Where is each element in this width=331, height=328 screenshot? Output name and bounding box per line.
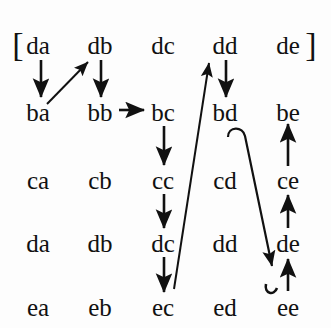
edge-ba-to-db bbox=[47, 62, 88, 104]
edge-ec-to-dd bbox=[174, 63, 209, 289]
cell-cb: cb bbox=[88, 168, 112, 193]
cell-dd-top: dd bbox=[213, 33, 238, 58]
edge-bd-to-ee-tail-hook bbox=[266, 284, 277, 293]
cell-eb: eb bbox=[88, 295, 112, 320]
cell-db-lower: db bbox=[88, 231, 113, 256]
cell-ce: ce bbox=[277, 168, 299, 193]
cell-cc: cc bbox=[152, 168, 174, 193]
cell-dd-lower: dd bbox=[213, 231, 238, 256]
cell-cd: cd bbox=[213, 168, 237, 193]
cell-ed: ed bbox=[213, 295, 237, 320]
cell-ca: ca bbox=[27, 168, 49, 193]
cell-ba: ba bbox=[26, 100, 50, 125]
cell-dc-top: dc bbox=[151, 33, 175, 58]
cell-de-lower: de bbox=[276, 231, 300, 256]
cell-ea: ea bbox=[27, 295, 49, 320]
cell-ee: ee bbox=[277, 295, 299, 320]
cell-dc-lower: dc bbox=[151, 231, 175, 256]
cell-da-lower: da bbox=[26, 231, 50, 256]
cell-be: be bbox=[276, 100, 300, 125]
cell-ec: ec bbox=[152, 295, 174, 320]
cell-db-top: db bbox=[88, 33, 113, 58]
cell-bd: bd bbox=[213, 100, 238, 125]
cell-bb: bb bbox=[88, 100, 113, 125]
cell-da-top: da bbox=[26, 33, 50, 58]
bracket-open: [ bbox=[12, 28, 23, 62]
cell-de-top: de bbox=[276, 33, 300, 58]
cell-bc: bc bbox=[151, 100, 175, 125]
diagram-canvas: [ ] da db dc dd de ba bb bc bd be ca cb … bbox=[0, 0, 331, 328]
bracket-close: ] bbox=[305, 28, 316, 62]
